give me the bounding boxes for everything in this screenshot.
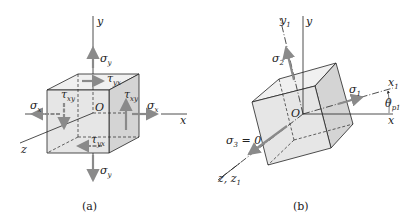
origin-label: O bbox=[95, 101, 104, 114]
sigma-x-right-label: σx bbox=[147, 99, 159, 114]
z-z1-axis-label: z, z1 bbox=[217, 172, 241, 187]
x-axis-label: x bbox=[180, 114, 187, 127]
x-axis-label: x bbox=[388, 114, 395, 127]
theta-p1-label: θp1 bbox=[385, 97, 401, 112]
y-axis-label: y bbox=[96, 15, 104, 28]
sigma-y-top-label: σy bbox=[100, 52, 113, 67]
sigma-y-bottom-label: σy bbox=[100, 164, 113, 179]
caption-a: (a) bbox=[82, 200, 97, 213]
sigma-2-label: σ2 bbox=[272, 52, 285, 67]
sigma-3-label: σ3 = 0 bbox=[226, 134, 261, 149]
stress-element-diagram: y x z O σy σy σx σx τyx τyx τxy τxy (a) bbox=[0, 0, 417, 222]
x1-axis-label: x1 bbox=[388, 76, 399, 91]
sigma-2-arrow bbox=[286, 48, 294, 80]
sigma-x-left-label: σx bbox=[30, 99, 42, 114]
y1-axis-label: y1 bbox=[279, 14, 291, 29]
z-axis-label: z bbox=[20, 143, 27, 156]
origin-label: O bbox=[291, 107, 300, 120]
figure-b: y x y1 x1 z, z1 O σ2 σ1 σ3 = 0 θp1 (b) bbox=[217, 14, 401, 213]
y-axis-label: y bbox=[305, 15, 313, 28]
caption-b: (b) bbox=[293, 200, 309, 213]
figure-a: y x z O σy σy σx σx τyx τyx τxy τxy (a) bbox=[20, 15, 187, 213]
sigma-1-label: σ1 bbox=[349, 83, 361, 98]
